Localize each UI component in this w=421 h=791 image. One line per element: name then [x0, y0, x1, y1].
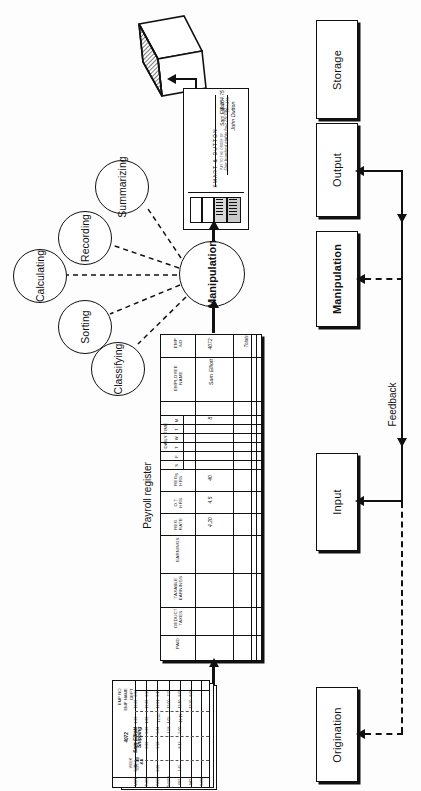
timecard-row-sun: SUN: [200, 773, 204, 791]
payroll-register-table: EMPNO EMPLOYEENAME DAILY TIME M T W T F …: [160, 334, 262, 661]
dashed-arrowhead-manipulation: [356, 274, 365, 284]
satellite-recording-label: Recording: [79, 214, 91, 262]
timecard-label-emp-name: EMP NAME: [123, 689, 128, 711]
dashed-line-vertical-origination: [401, 502, 403, 733]
timecard-row-sat: SAT: [189, 773, 193, 791]
timecard-row-thurs: THURS: [167, 773, 171, 791]
feedback-label: Feedback: [387, 370, 398, 440]
paycheck-illustration: SMART & DUTTON Sam Elliott PAY TO THE OR…: [183, 88, 249, 230]
register-col-taxable-earnings: TAXABLEEARNINGS: [173, 571, 183, 605]
register-value-monday: 8: [207, 407, 213, 429]
register-col-daily-time: DAILY TIME: [163, 427, 168, 449]
register-to-manipulation-arrowhead: [209, 299, 219, 308]
feedback-arrowhead-input: [355, 496, 364, 506]
satellite-summarizing: Summarizing: [95, 160, 149, 214]
satellite-calculating-label: Calculating: [34, 250, 46, 302]
manipulation-hub-label: Manipulation: [206, 240, 218, 308]
satellite-classifying-label: Classifying: [112, 344, 124, 395]
dashed-arrowhead-origination: [356, 729, 365, 739]
manipulation-hub-circle: Manipulation: [179, 241, 245, 307]
feedback-arrowhead-down-upper: [397, 214, 407, 223]
register-col-paid: PAID: [175, 627, 180, 661]
timecard-row-tues: TUES: [145, 773, 149, 791]
timecard-cell-2-4: 5:58: [156, 735, 160, 755]
register-to-manipulation-line: [212, 305, 215, 333]
register-col-emp-no: EMPNO: [173, 326, 183, 360]
satellite-sorting-label: Sorting: [79, 310, 91, 343]
timecard-illustration: EMP NO EMP NAME DEPT 4072 Sam Elliott Sh…: [112, 680, 210, 788]
timecard-cell-3-3: 4:58: [167, 720, 171, 740]
check-stub-divider: [188, 192, 244, 193]
check-rule-1: [215, 95, 216, 187]
dashed-line-to-origination: [365, 733, 403, 735]
timecard-cell-5-1: 12:30: [189, 694, 193, 714]
flow-box-storage-label: Storage: [331, 50, 343, 90]
flow-box-output-label: Output: [331, 153, 343, 187]
diagram-canvas: SMART & DUTTON Sam Elliott PAY TO THE OR…: [0, 0, 421, 791]
satellite-summarizing-label: Summarizing: [116, 156, 128, 217]
register-value-ot-hrs: 4.5: [207, 489, 213, 511]
flow-box-origination-label: Origination: [331, 707, 343, 762]
timecard-label-emp-no: EMP NO: [117, 689, 122, 711]
flow-box-input-label: Input: [331, 489, 343, 514]
register-total-label: Totals: [244, 331, 249, 353]
register-header-separator: [195, 335, 196, 660]
satellite-classifying: Classifying: [91, 342, 145, 396]
flow-box-origination[interactable]: Origination: [316, 687, 358, 782]
flow-box-storage[interactable]: Storage: [316, 20, 358, 119]
feedback-arrowhead-output: [355, 166, 364, 176]
flow-box-manipulation-label: Manipulation: [331, 244, 343, 314]
register-value-employee-name: Sam Elliott: [208, 352, 214, 392]
satellite-calculating: Calculating: [13, 249, 67, 303]
check-signature: John Dutton: [230, 96, 236, 136]
timecard-to-register-arrowhead: [209, 658, 219, 667]
register-row-separator-1: [233, 335, 234, 660]
check-to-ledger-arrowhead: [167, 74, 176, 84]
timecard-week-header: WEEK: [129, 751, 133, 775]
feedback-arrowhead-down-lower: [397, 438, 407, 447]
flow-box-output[interactable]: Output: [316, 123, 358, 217]
check-stub-1: [190, 197, 202, 223]
check-to-ledger-line-h: [176, 78, 197, 80]
check-stub-4: [227, 197, 241, 223]
register-caption: Payroll register: [142, 461, 153, 531]
timecard-cell-0-6: 8:00: [134, 758, 138, 778]
satellite-recording: Recording: [58, 211, 112, 265]
timecard-cell-1-4: 8:00: [145, 735, 149, 755]
register-col-employee-name: EMPLOYEENAME: [173, 361, 183, 395]
flow-box-manipulation[interactable]: Manipulation: [316, 231, 358, 327]
register-value-reg-hrs: 40: [207, 467, 213, 489]
dashed-line-to-manipulation: [365, 278, 403, 280]
timecard-label-dept: DEPT: [129, 689, 134, 711]
register-value-reg-rate: 4.20: [207, 511, 213, 533]
register-row-separator-3: [256, 335, 257, 660]
timecard-cell-4-6: 7:45: [178, 758, 182, 778]
feedback-line-input-h: [363, 500, 403, 502]
timecard-week-ot-value: 4.5: [139, 751, 144, 773]
timecard-cell-4-4: 8:13: [178, 735, 182, 755]
register-col-earnings: EARNINGS: [175, 533, 180, 567]
register-row-separator-2: [251, 335, 252, 660]
timecard-cell-2-6: 8:00: [156, 758, 160, 778]
feedback-line-output-h: [363, 170, 403, 172]
timecard-cell-0-4: 8:00: [134, 735, 138, 755]
flow-box-input[interactable]: Input: [316, 453, 358, 551]
manipulation-to-check-arrowhead: [209, 220, 219, 229]
timecard-value-emp-no: 4072: [124, 713, 129, 743]
